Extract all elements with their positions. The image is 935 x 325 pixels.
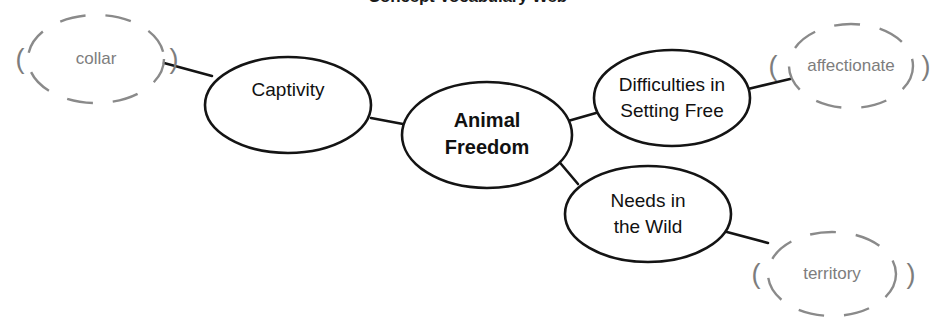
concept-web-canvas: ( ) collar ( ) affectionate ( ) territor… <box>0 0 935 325</box>
vocab-node-affectionate[interactable]: ( ) affectionate <box>769 24 931 108</box>
vocab-node-collar[interactable]: ( ) collar <box>16 15 179 103</box>
captivity-label: Captivity <box>252 79 325 100</box>
collar-label: collar <box>76 49 117 68</box>
affectionate-close-paren: ) <box>922 51 931 81</box>
animal-freedom-label-line-2: Freedom <box>445 136 529 158</box>
needs-label-line-1: Needs in <box>611 190 686 211</box>
animal-freedom-label-line-1: Animal <box>454 109 521 131</box>
territory-label: territory <box>803 264 861 283</box>
needs-label-line-2: the Wild <box>614 216 683 237</box>
vocab-node-territory[interactable]: ( ) territory <box>752 232 916 316</box>
connector-center-to-difficulties <box>568 113 596 121</box>
affectionate-open-paren: ( <box>769 51 778 81</box>
difficulties-label-line-1: Difficulties in <box>619 74 725 95</box>
collar-close-paren: ) <box>170 44 179 74</box>
affectionate-label: affectionate <box>807 56 895 75</box>
connector-center-to-captivity <box>371 118 403 124</box>
difficulties-label-line-2: Setting Free <box>620 100 724 121</box>
territory-open-paren: ( <box>752 259 761 289</box>
collar-open-paren: ( <box>16 44 25 74</box>
node-animal-freedom[interactable]: Animal Freedom <box>402 82 572 188</box>
captivity-oval-outline <box>205 57 371 153</box>
node-needs-in-the-wild[interactable]: Needs in the Wild <box>565 166 731 262</box>
node-captivity[interactable]: Captivity <box>205 57 371 153</box>
territory-close-paren: ) <box>907 259 916 289</box>
difficulties-oval-outline <box>594 50 750 146</box>
node-difficulties-setting-free[interactable]: Difficulties in Setting Free <box>594 50 750 146</box>
animal-freedom-oval-outline <box>402 82 572 188</box>
needs-oval-outline <box>565 166 731 262</box>
concept-web-diagram: Concept Vocabulary Web ( ) collar ( ) af… <box>0 0 935 325</box>
